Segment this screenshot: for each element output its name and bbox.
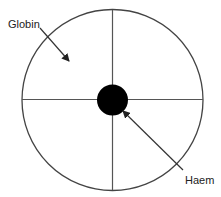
haem-arrow — [123, 111, 183, 170]
globin-label: Globin — [8, 19, 40, 30]
haem-label: Haem — [185, 175, 214, 186]
globin-arrow — [40, 28, 69, 61]
